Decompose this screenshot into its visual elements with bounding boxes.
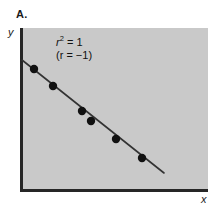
data-point — [138, 154, 146, 162]
data-point — [49, 82, 57, 90]
data-point — [112, 135, 120, 143]
scatter-plot-svg — [0, 0, 222, 211]
data-point — [87, 117, 95, 125]
data-point — [30, 65, 38, 73]
figure-panel-a: A. y x r2 = 1 (r = −1) — [0, 0, 222, 211]
data-point — [78, 107, 86, 115]
